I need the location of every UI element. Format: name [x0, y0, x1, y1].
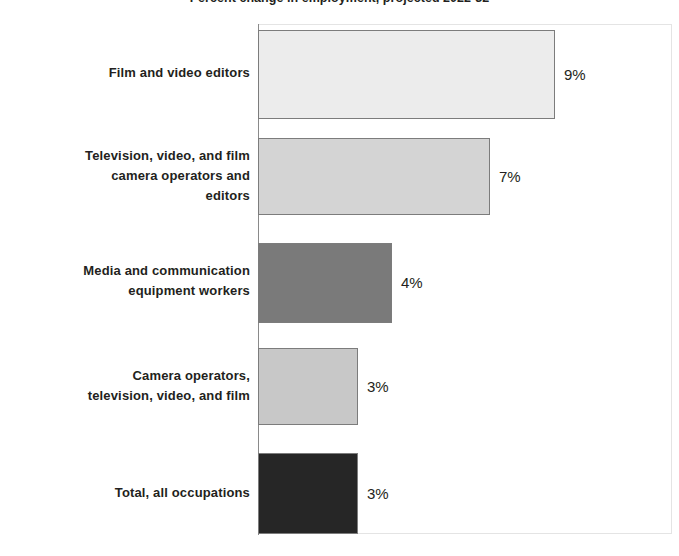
bar — [258, 30, 555, 119]
bar-category-label-line: Film and video editors — [0, 63, 250, 83]
bar-category-label-line: editors — [0, 186, 250, 206]
bar — [258, 138, 490, 215]
bar-value-label: 9% — [564, 67, 586, 82]
bar-category-label-line: Camera operators, — [0, 366, 250, 386]
bar-category-label: Total, all occupations — [0, 483, 250, 503]
bar-category-label: Television, video, and filmcamera operat… — [0, 146, 250, 206]
bar-value-label: 3% — [367, 379, 389, 394]
bar-value-label: 3% — [367, 486, 389, 501]
bar-category-label: Camera operators,television, video, and … — [0, 366, 250, 406]
bar-category-label-line: equipment workers — [0, 281, 250, 301]
bar — [258, 243, 392, 323]
bar-category-label-line: Total, all occupations — [0, 483, 250, 503]
bar-category-label: Media and communicationequipment workers — [0, 261, 250, 301]
bar-category-label-line: Media and communication — [0, 261, 250, 281]
bar-category-label-line: Television, video, and film — [0, 146, 250, 166]
bar-value-label: 7% — [499, 169, 521, 184]
bar-category-label-line: television, video, and film — [0, 386, 250, 406]
bar — [258, 453, 358, 534]
bar-category-label: Film and video editors — [0, 63, 250, 83]
bar-category-label-line: camera operators and — [0, 166, 250, 186]
bar — [258, 348, 358, 425]
bar-value-label: 4% — [401, 275, 423, 290]
chart-title: Percent change in employment, projected … — [0, 0, 679, 5]
